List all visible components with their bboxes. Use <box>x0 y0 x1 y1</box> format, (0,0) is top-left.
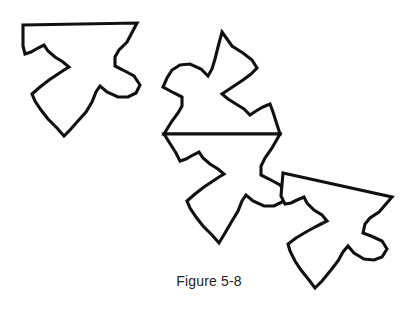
tessellation-diagram <box>0 0 418 310</box>
figure-container: Figure 5-8 <box>0 0 418 310</box>
figure-caption: Figure 5-8 <box>21 272 397 290</box>
